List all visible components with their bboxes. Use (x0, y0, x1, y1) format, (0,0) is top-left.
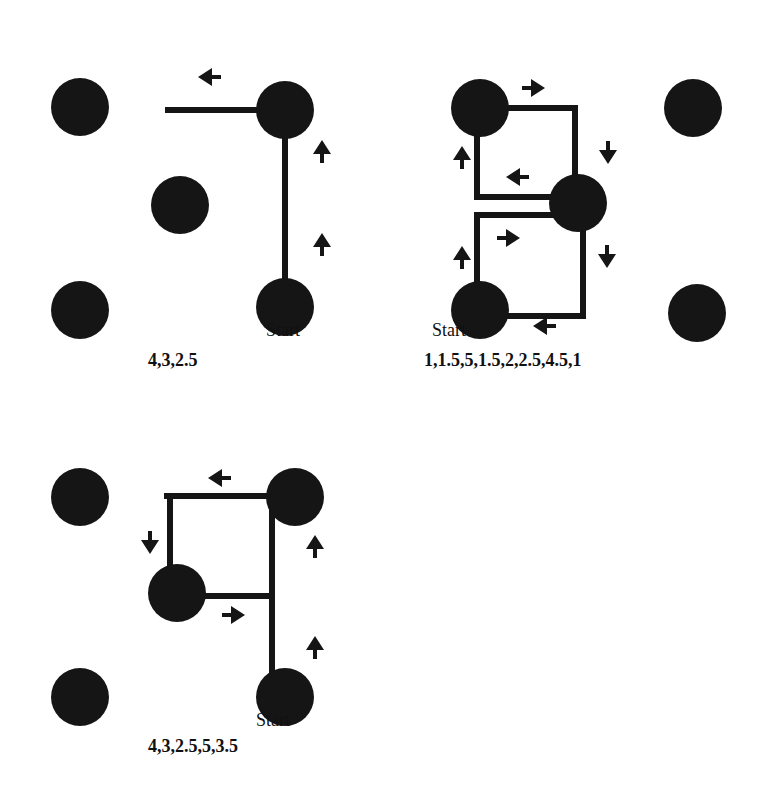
start-label-3: Start (256, 710, 290, 731)
dot-node (256, 81, 314, 139)
arrow-left-icon (533, 317, 556, 335)
arrow-up-icon (453, 246, 471, 269)
arrow-up-icon (306, 636, 324, 659)
sequence-label-2: 1,1.5,5,1.5,2,2.5,4.5,1 (424, 350, 582, 371)
dot-node (549, 174, 607, 232)
dot-node (51, 281, 109, 339)
arrow-left-icon (208, 469, 231, 487)
arrow-left-icon (198, 68, 221, 86)
arrow-down-icon (598, 245, 616, 268)
arrow-up-icon (313, 233, 331, 256)
dot-node (51, 78, 109, 136)
sequence-label-1: 4,3,2.5 (148, 350, 198, 371)
arrow-left-icon (506, 168, 529, 186)
arrow-right-icon (497, 229, 520, 247)
diagram-canvas (0, 0, 760, 797)
sequence-label-3: 4,3,2.5,5,3.5 (148, 736, 238, 757)
arrow-up-icon (313, 140, 331, 163)
dot-node (668, 284, 726, 342)
dot-node (664, 79, 722, 137)
dot-node (51, 468, 109, 526)
arrow-down-icon (141, 531, 159, 554)
dot-node (51, 668, 109, 726)
arrow-down-icon (599, 141, 617, 164)
dot-node (151, 176, 209, 234)
arrow-right-icon (522, 79, 545, 97)
start-label-2: Start (432, 320, 466, 341)
start-label-1: Start (266, 320, 300, 341)
arrow-up-icon (306, 535, 324, 558)
arrow-up-icon (453, 146, 471, 169)
dot-node (148, 564, 206, 622)
dot-node (266, 468, 324, 526)
dot-node (451, 79, 509, 137)
arrow-right-icon (222, 606, 245, 624)
